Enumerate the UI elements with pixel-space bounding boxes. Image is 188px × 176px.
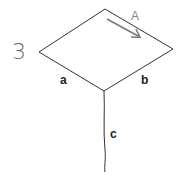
figure-number: 3 [12, 39, 26, 64]
diagram-canvas: 3 A a b c [0, 0, 188, 176]
stem-line [104, 91, 105, 172]
edge-label-a: a [60, 73, 67, 87]
edge-label-c: c [110, 127, 117, 141]
arrow-label: A [131, 9, 139, 23]
edge-label-b: b [141, 73, 148, 87]
